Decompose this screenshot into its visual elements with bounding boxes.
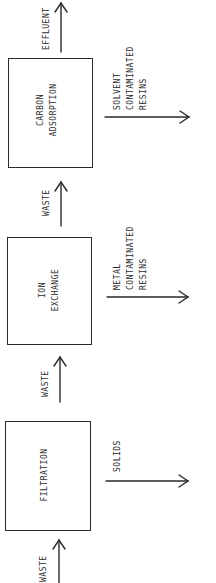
waste-input-label: WASTE [37, 542, 50, 582]
metal-resins-label: METAL CONTAMINATED RESINS [111, 210, 150, 290]
process-flow-diagram: CARBON ADSORPTION ION EXCHANGE FILTRATIO… [0, 0, 216, 583]
carbon-adsorption-label: CARBON ADSORPTION [34, 70, 60, 150]
solvent-resins-arrow-icon [105, 111, 189, 123]
effluent-arrow-icon [55, 3, 67, 52]
metal-resins-arrow-icon [107, 291, 188, 303]
solids-label: SOLIDS [111, 432, 124, 472]
waste-label-filtration-to-ion: WASTE [39, 357, 52, 397]
filtration-label: FILTRATION [38, 440, 51, 510]
waste-arrow-filtration-to-ion-icon [54, 357, 66, 402]
solvent-resins-label: SOLVENT CONTAMINATED RESINS [111, 30, 150, 110]
waste-label-ion-to-carbon: WASTE [40, 176, 53, 216]
waste-arrow-ion-to-carbon-icon [55, 182, 67, 226]
ion-exchange-label: ION EXCHANGE [36, 260, 62, 320]
effluent-label: EFFLUENT [40, 0, 53, 50]
waste-input-arrow-icon [53, 540, 65, 583]
solids-arrow-icon [106, 475, 188, 487]
